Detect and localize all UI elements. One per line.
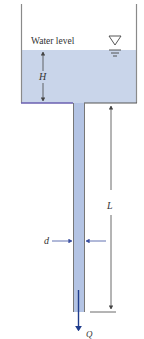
pipe-water (73, 103, 84, 312)
flow-rate-label: Q (86, 329, 93, 339)
head-label: H (38, 71, 47, 82)
tank-pipe-diagram: Water level H L d Q (0, 0, 144, 339)
water-level-label: Water level (31, 36, 75, 46)
diameter-label: d (44, 235, 50, 246)
length-label: L (106, 200, 113, 211)
